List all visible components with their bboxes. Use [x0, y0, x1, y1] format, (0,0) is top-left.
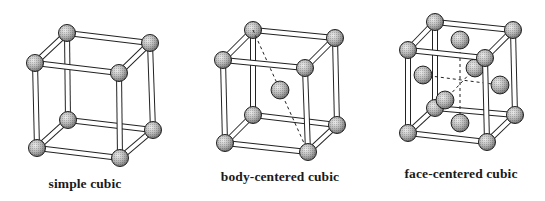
corner-atom-btr	[505, 22, 522, 39]
corner-atom-fbl	[217, 135, 234, 152]
corner-atom-bbr	[507, 107, 524, 124]
corner-atom-bbl	[245, 107, 262, 124]
rods-back	[35, 33, 153, 148]
corner-atom-ftr	[297, 60, 314, 77]
lattice-simple	[27, 25, 162, 167]
corner-atom-ftr	[111, 65, 128, 82]
rods-front	[35, 43, 153, 158]
face-top-atom	[451, 31, 469, 49]
face-left-atom	[414, 66, 432, 84]
caption-fcc: face-centered cubic	[405, 166, 518, 182]
corner-atom-fbr	[479, 134, 496, 151]
face-bottom-atom	[451, 114, 469, 132]
lattice-fcc	[400, 14, 524, 151]
corner-atom-fbr	[300, 144, 317, 161]
corner-atom-bbl	[60, 112, 77, 129]
corner-atom-btr	[327, 30, 344, 47]
lattice-bcc	[215, 22, 346, 161]
corner-atom-btl	[59, 25, 76, 42]
body-center-atom	[271, 81, 289, 99]
corner-atom-fbl	[29, 140, 46, 157]
corner-atom-ftr	[477, 50, 494, 67]
corner-atom-ftl	[27, 55, 44, 72]
corner-atom-fbr	[112, 150, 129, 167]
corner-atom-ftl	[215, 52, 232, 69]
face-front-atom	[436, 91, 454, 109]
corner-atom-btr	[142, 35, 159, 52]
corner-atom-btl	[427, 14, 444, 31]
caption-bcc: body-centered cubic	[221, 169, 339, 185]
corner-atom-ftl	[400, 42, 417, 59]
face-right-atom	[491, 76, 509, 94]
corner-atom-bbr	[145, 122, 162, 139]
corner-atom-fbl	[400, 125, 417, 142]
caption-simple: simple cubic	[49, 176, 122, 192]
corner-atom-bbr	[329, 117, 346, 134]
